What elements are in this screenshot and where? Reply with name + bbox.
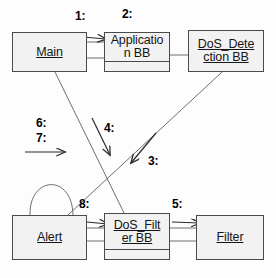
- object-box-dos-filter-bb[interactable]: DoS_Filt er BB: [104, 213, 170, 260]
- self-loop-alert: [30, 185, 73, 215]
- object-label-dos-filter-bb: DoS_Filt er BB: [105, 214, 169, 249]
- object-label-filter: Filter: [197, 216, 263, 259]
- object-box-dos-detection-bb[interactable]: DoS_Dete ction BB: [188, 30, 264, 72]
- message-label-8: 8:: [79, 198, 89, 210]
- object-compartment-dos-filter-bb: [105, 249, 169, 259]
- message-label-7: 7:: [36, 132, 46, 144]
- link-dosdetect-alert: [68, 72, 222, 215]
- object-label-application-bb: Applicatio n BB: [105, 33, 169, 61]
- message-label-2: 2:: [122, 8, 132, 20]
- object-compartment-application-bb: [105, 61, 169, 71]
- object-box-application-bb[interactable]: Applicatio n BB: [104, 32, 170, 72]
- diagram-canvas: Main Applicatio n BB DoS_Dete ction BB A…: [0, 0, 276, 278]
- object-box-main[interactable]: Main: [12, 32, 87, 72]
- message-label-5: 5:: [172, 198, 182, 210]
- object-label-main: Main: [13, 33, 86, 71]
- object-label-alert: Alert: [13, 216, 86, 259]
- message-label-6: 6:: [36, 117, 46, 129]
- message-label-1: 1:: [75, 10, 85, 22]
- object-box-filter[interactable]: Filter: [196, 215, 264, 260]
- object-label-dos-detection-bb: DoS_Dete ction BB: [189, 31, 263, 71]
- message-label-4: 4:: [104, 122, 114, 134]
- object-box-alert[interactable]: Alert: [12, 215, 87, 260]
- message-label-3: 3:: [148, 155, 158, 167]
